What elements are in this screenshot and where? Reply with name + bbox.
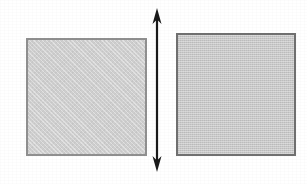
right-square-shape: right square (176, 33, 296, 156)
left-square-shape: left square (26, 38, 147, 156)
vertical-double-headed-arrow-icon (141, 2, 173, 178)
figure-canvas: Two shaded squares separated by a vertic… (0, 0, 307, 184)
right-square-label: right square (178, 35, 179, 36)
left-square-fill-texture (28, 40, 145, 154)
left-square-label: left square (28, 40, 29, 41)
right-square-fill-texture (178, 35, 294, 154)
figure-title: Two shaded squares separated by a vertic… (0, 0, 1, 1)
